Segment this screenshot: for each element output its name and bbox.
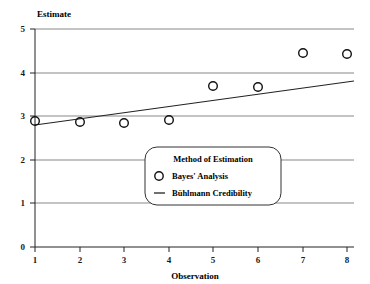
legend-title: Method of Estimation	[173, 154, 253, 164]
chart-background	[0, 0, 370, 284]
x-tick-label-6: 6	[256, 255, 261, 265]
x-tick-label-1: 1	[33, 255, 38, 265]
y-tick-label-4: 4	[21, 68, 26, 78]
scatter-chart: Estimate 5 4 3 2 1	[0, 0, 370, 284]
y-tick-label-1: 1	[21, 198, 26, 208]
x-tick-label-8: 8	[345, 255, 350, 265]
legend-entry-buhlmann-credibility: Bühlmann Credibility	[172, 188, 253, 198]
y-tick-label-0: 0	[21, 242, 26, 252]
y-tick-label-2: 2	[21, 155, 26, 165]
chart-legend: Method of Estimation Bayes' Analysis Büh…	[145, 147, 281, 205]
y-tick-label-5: 5	[21, 24, 26, 34]
x-tick-label-7: 7	[301, 255, 306, 265]
chart-container: Estimate 5 4 3 2 1	[0, 0, 370, 284]
x-tick-label-5: 5	[211, 255, 216, 265]
legend-entry-bayes-analysis: Bayes' Analysis	[172, 171, 229, 181]
x-axis-title: Observation	[171, 271, 219, 281]
x-tick-label-2: 2	[78, 255, 83, 265]
x-tick-label-3: 3	[122, 255, 127, 265]
y-tick-label-3: 3	[21, 111, 26, 121]
x-tick-label-4: 4	[167, 255, 172, 265]
y-axis-title: Estimate	[37, 9, 71, 19]
